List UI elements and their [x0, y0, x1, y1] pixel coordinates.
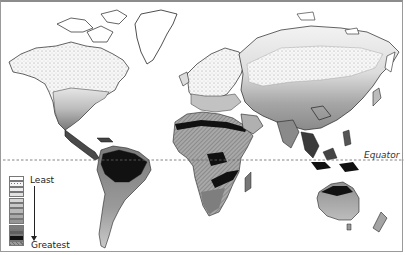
legend-swatch-12: [9, 235, 24, 240]
map-frame: Equator Least Greatest: [0, 0, 403, 252]
region-europe: [179, 48, 245, 112]
legend-least-label: Least: [30, 175, 54, 185]
legend-greatest-label: Greatest: [31, 240, 70, 250]
legend-arrow: [34, 186, 35, 239]
legend-swatch-7: [9, 208, 24, 213]
equator-label: Equator: [364, 150, 399, 160]
legend: Least Greatest: [9, 176, 89, 252]
legend-swatch-2: [9, 181, 24, 186]
region-asia: [239, 12, 399, 148]
region-africa: [173, 112, 253, 216]
region-north-america: [9, 10, 129, 130]
region-greenland: [135, 10, 177, 64]
region-south-america: [97, 146, 151, 248]
region-southeast-asia: [301, 130, 359, 172]
legend-swatch-5: [9, 198, 24, 203]
legend-swatch-13: [9, 241, 24, 246]
legend-swatch-10: [9, 225, 24, 230]
legend-swatch-4: [9, 192, 24, 197]
legend-swatch-9: [9, 219, 24, 224]
region-new-zealand: [373, 212, 387, 232]
region-australia: [317, 182, 359, 230]
